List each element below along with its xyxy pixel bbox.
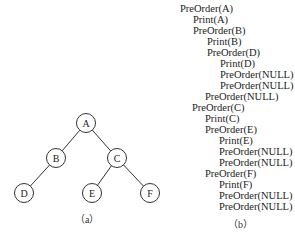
tree-node-B: B [47, 149, 66, 168]
trace-line: Print(B) [207, 36, 241, 47]
trace-line: Print(A) [193, 14, 228, 25]
trace-line: PreOrder(E) [205, 124, 257, 135]
tree-edge-A-C [92, 130, 110, 151]
trace-line: PreOrder(NULL) [220, 80, 293, 91]
trace-line: PreOrder(NULL) [219, 190, 292, 201]
tree-edge-B-D [30, 165, 49, 186]
trace-line: PreOrder(NULL) [219, 157, 292, 168]
trace-line: PreOrder(NULL) [220, 69, 293, 80]
svg-text:F: F [147, 188, 153, 199]
tree-node-D: D [15, 184, 34, 203]
trace-line: PreOrder(NULL) [205, 91, 278, 102]
trace-line: PreOrder(NULL) [219, 201, 292, 212]
trace-line: PreOrder(B) [193, 25, 245, 36]
trace-line: PreOrder(F) [205, 168, 256, 179]
svg-text:D: D [20, 188, 27, 199]
tree-caption: （a） [75, 211, 99, 226]
tree-edge-C-F [124, 165, 144, 186]
trace-line: Print(F) [219, 179, 252, 190]
trace-line: PreOrder(A) [180, 3, 233, 14]
tree-edge-A-B [62, 130, 80, 151]
trace-line: PreOrder(D) [207, 47, 260, 58]
trace-caption: （b） [228, 216, 253, 231]
svg-text:C: C [114, 153, 121, 164]
svg-text:E: E [89, 188, 95, 199]
tree-node-F: F [141, 184, 160, 203]
tree-node-A: A [77, 114, 96, 133]
trace-line: Print(C) [205, 113, 239, 124]
svg-text:A: A [82, 118, 90, 129]
trace-line: Print(E) [219, 135, 253, 146]
tree-edge-C-E [98, 166, 112, 186]
trace-line: PreOrder(C) [192, 102, 244, 113]
tree-node-C: C [108, 149, 127, 168]
svg-text:B: B [53, 153, 60, 164]
trace-line: Print(D) [220, 58, 255, 69]
tree-node-E: E [83, 184, 102, 203]
trace-line: PreOrder(NULL) [219, 146, 292, 157]
